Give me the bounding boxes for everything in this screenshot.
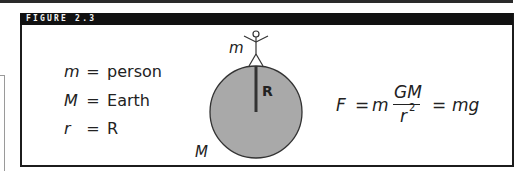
formula-force: F (336, 95, 346, 115)
formula-mass: m (372, 95, 389, 115)
formula-exponent: 2 (409, 102, 415, 113)
earth-label: M (195, 143, 208, 161)
formula-result: mg (452, 95, 479, 115)
person-icon (244, 31, 268, 66)
person-label: m (229, 39, 244, 57)
formula-numerator: GM (394, 82, 422, 102)
formula-equals: = (355, 95, 369, 115)
fraction-bar (393, 104, 420, 105)
formula-denominator: r (400, 106, 407, 126)
formula-equals: = (432, 95, 446, 115)
radius-label: R (262, 83, 273, 99)
